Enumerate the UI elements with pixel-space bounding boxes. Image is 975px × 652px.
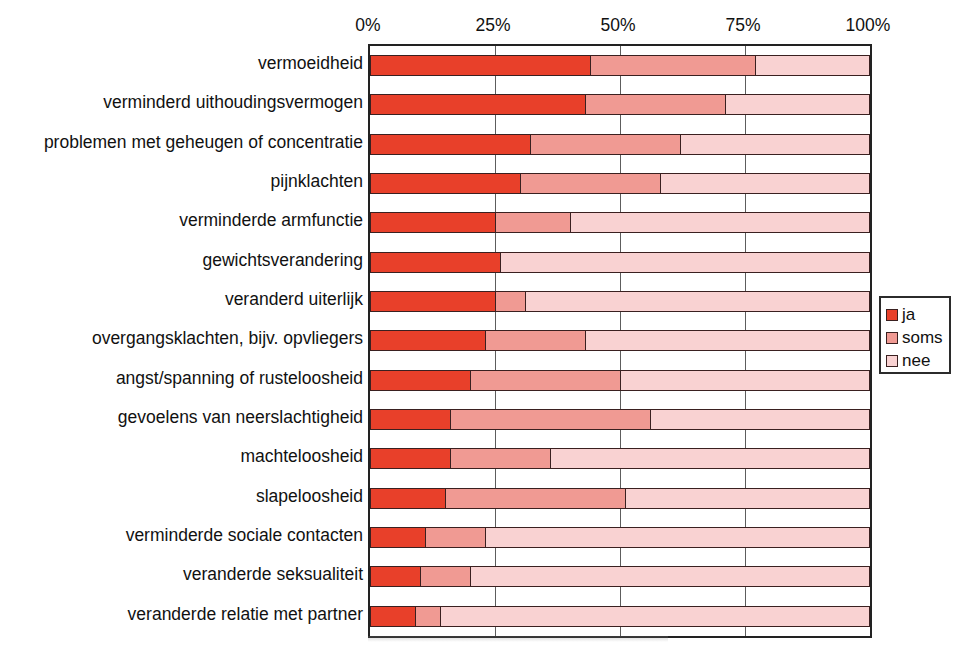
- bar-segment-ja: [371, 410, 451, 429]
- category-label: pijnklachten: [0, 171, 363, 192]
- legend-label: soms: [902, 328, 943, 348]
- bar-segment-nee: [586, 331, 869, 350]
- x-tick-label: 75%: [725, 14, 760, 36]
- x-tick-label: 25%: [475, 14, 510, 36]
- bar-segment-ja: [371, 607, 416, 626]
- bar-segment-ja: [371, 253, 501, 272]
- bar-segment-ja: [371, 528, 426, 547]
- category-axis-labels: vermoeidheidverminderd uithoudingsvermog…: [0, 44, 363, 634]
- bar-segment-ja: [371, 567, 421, 586]
- x-tick-label: 0%: [355, 14, 380, 36]
- category-label: overgangsklachten, bijv. opvliegers: [0, 328, 363, 349]
- x-tick-label: 100%: [846, 14, 891, 36]
- chart-row: [370, 46, 870, 85]
- x-tick-label: 50%: [600, 14, 635, 36]
- stacked-bar: [370, 134, 870, 155]
- stacked-bar: [370, 291, 870, 312]
- bar-segment-soms: [496, 292, 526, 311]
- category-label: veranderde relatie met partner: [0, 604, 363, 625]
- category-label: vermoeidheid: [0, 53, 363, 74]
- chart-row: [370, 479, 870, 518]
- bar-segment-ja: [371, 56, 591, 75]
- category-label: gewichtsverandering: [0, 250, 363, 271]
- stacked-bar: [370, 330, 870, 351]
- category-label: veranderd uiterlijk: [0, 289, 363, 310]
- chart-row: [370, 85, 870, 124]
- bar-segment-soms: [486, 331, 586, 350]
- bar-segment-nee: [441, 607, 869, 626]
- chart-row: [370, 518, 870, 557]
- category-label: verminderd uithoudingsvermogen: [0, 92, 363, 113]
- chart-row: [370, 361, 870, 400]
- bar-segment-nee: [486, 528, 869, 547]
- plot-area: [368, 44, 872, 638]
- x-axis-tick-labels: 0%25%50%75%100%: [368, 14, 868, 36]
- bar-segment-nee: [526, 292, 869, 311]
- bar-segment-nee: [471, 567, 869, 586]
- chart-row: [370, 439, 870, 478]
- stacked-bar: [370, 55, 870, 76]
- scan-artifact: [368, 636, 668, 642]
- chart-row: [370, 125, 870, 164]
- chart-row: [370, 164, 870, 203]
- bar-segment-soms: [531, 135, 681, 154]
- stacked-bar: [370, 566, 870, 587]
- legend-swatch-ja: [886, 309, 898, 321]
- chart-row: [370, 597, 870, 636]
- bar-segment-soms: [521, 174, 661, 193]
- bar-segment-ja: [371, 331, 486, 350]
- bar-segment-ja: [371, 449, 451, 468]
- stacked-bar-chart: 0%25%50%75%100% vermoeidheidverminderd u…: [0, 0, 975, 652]
- bar-segment-nee: [651, 410, 869, 429]
- stacked-bar: [370, 370, 870, 391]
- category-label: gevoelens van neerslachtigheid: [0, 407, 363, 428]
- category-label: verminderde armfunctie: [0, 210, 363, 231]
- chart-row: [370, 243, 870, 282]
- chart-row: [370, 557, 870, 596]
- bar-segment-soms: [426, 528, 486, 547]
- category-label: verminderde sociale contacten: [0, 525, 363, 546]
- stacked-bar: [370, 212, 870, 233]
- bar-segment-ja: [371, 95, 586, 114]
- stacked-bar: [370, 527, 870, 548]
- bar-segment-ja: [371, 292, 496, 311]
- category-label: slapeloosheid: [0, 486, 363, 507]
- legend-swatch-soms: [886, 332, 898, 344]
- legend: jasomsnee: [879, 296, 951, 374]
- legend-label: nee: [902, 351, 930, 371]
- bar-segment-nee: [626, 489, 869, 508]
- bar-segment-nee: [756, 56, 869, 75]
- stacked-bar: [370, 606, 870, 627]
- legend-item-nee: nee: [886, 349, 949, 372]
- category-label: problemen met geheugen of concentratie: [0, 132, 363, 153]
- bar-segment-nee: [726, 95, 869, 114]
- bar-segment-soms: [416, 607, 441, 626]
- category-label: veranderde seksualiteit: [0, 564, 363, 585]
- bar-segment-soms: [591, 56, 756, 75]
- chart-row: [370, 203, 870, 242]
- bar-segment-soms: [451, 410, 651, 429]
- legend-swatch-nee: [886, 355, 898, 367]
- bar-segment-soms: [446, 489, 626, 508]
- stacked-bar: [370, 409, 870, 430]
- bar-segment-nee: [571, 213, 869, 232]
- category-label: angst/spanning of rusteloosheid: [0, 368, 363, 389]
- bar-segment-nee: [551, 449, 869, 468]
- stacked-bar: [370, 252, 870, 273]
- bar-segment-ja: [371, 489, 446, 508]
- bar-segment-nee: [501, 253, 869, 272]
- bar-segment-nee: [661, 174, 869, 193]
- bar-segment-ja: [371, 174, 521, 193]
- bar-segment-soms: [451, 449, 551, 468]
- bar-segment-soms: [586, 95, 726, 114]
- bar-segment-nee: [621, 371, 869, 390]
- bar-segment-soms: [471, 371, 621, 390]
- legend-item-soms: soms: [886, 326, 949, 349]
- legend-label: ja: [902, 305, 915, 325]
- bar-segment-ja: [371, 371, 471, 390]
- stacked-bar: [370, 173, 870, 194]
- legend-item-ja: ja: [886, 303, 949, 326]
- bar-segment-soms: [421, 567, 471, 586]
- chart-row: [370, 282, 870, 321]
- stacked-bar: [370, 94, 870, 115]
